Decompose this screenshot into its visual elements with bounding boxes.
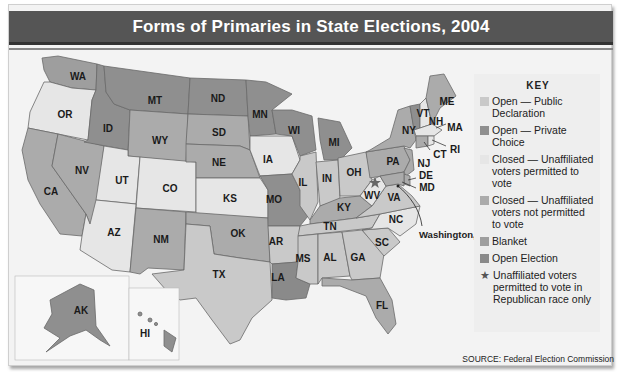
svg-text:NM: NM (153, 234, 169, 245)
legend-label: Closed — Unaffiliated voters not permitt… (492, 194, 596, 230)
svg-text:RI: RI (450, 144, 460, 155)
svg-text:TN: TN (323, 221, 336, 232)
svg-text:NJ: NJ (418, 158, 431, 169)
svg-text:MO: MO (266, 194, 282, 205)
svg-text:WA: WA (70, 71, 86, 82)
legend-label: Open — Public Declaration (492, 95, 596, 119)
svg-text:MT: MT (148, 95, 162, 106)
svg-text:ID: ID (103, 123, 113, 134)
legend-label: Blanket (492, 235, 527, 247)
source-note: SOURCE: Federal Election Commission (462, 354, 614, 364)
svg-text:AK: AK (74, 305, 89, 316)
svg-text:WY: WY (152, 135, 168, 146)
svg-text:WI: WI (288, 125, 300, 136)
svg-text:KS: KS (223, 193, 237, 204)
swatch-blanket (480, 237, 489, 246)
svg-text:AZ: AZ (107, 227, 120, 238)
state-ia (250, 136, 300, 176)
legend-item-open-public: Open — Public Declaration (480, 95, 596, 119)
svg-text:NV: NV (75, 165, 89, 176)
svg-text:IN: IN (322, 173, 332, 184)
star-icon: ★ (480, 269, 491, 281)
swatch-closed-not-permitted (480, 196, 489, 205)
svg-text:SC: SC (375, 237, 389, 248)
svg-text:AL: AL (323, 252, 336, 263)
svg-text:CO: CO (163, 183, 178, 194)
state-ct (416, 136, 428, 148)
svg-text:ND: ND (211, 93, 225, 104)
legend-label: Closed — Unaffiliated voters permitted t… (492, 153, 596, 189)
svg-text:NY: NY (402, 125, 416, 136)
svg-text:NC: NC (389, 214, 403, 225)
legend-item-open-election: Open Election (480, 252, 596, 264)
swatch-open-election (480, 254, 489, 263)
svg-text:AR: AR (269, 236, 284, 247)
legend-label: Open Election (492, 252, 558, 264)
svg-text:MS: MS (296, 253, 311, 264)
hi-island-3 (154, 322, 157, 325)
svg-text:FL: FL (376, 300, 388, 311)
svg-text:CT: CT (433, 149, 446, 160)
svg-text:OH: OH (347, 167, 362, 178)
swatch-open-private (480, 126, 489, 135)
svg-text:WV: WV (364, 190, 380, 201)
svg-text:VA: VA (387, 192, 400, 203)
legend-item-closed-not-permitted: Closed — Unaffiliated voters not permitt… (480, 194, 596, 230)
svg-text:MI: MI (328, 137, 339, 148)
svg-text:NH: NH (429, 116, 443, 127)
legend-item-star: ★ Unaffiliated voters permitted to vote … (480, 269, 596, 305)
svg-text:VT: VT (417, 108, 430, 119)
svg-text:CA: CA (44, 186, 58, 197)
legend-item-closed-permitted: Closed — Unaffiliated voters permitted t… (480, 153, 596, 189)
svg-text:PA: PA (386, 156, 399, 167)
legend-item-open-private: Open — Private Choice (480, 124, 596, 148)
legend-label: Unaffiliated voters permitted to vote in… (493, 269, 596, 305)
legend-heading: KEY (480, 80, 596, 91)
svg-text:LA: LA (271, 272, 284, 283)
svg-text:IL: IL (299, 177, 308, 188)
legend-item-blanket: Blanket (480, 235, 596, 247)
swatch-open-public (480, 97, 489, 106)
swatch-closed-permitted (480, 155, 489, 164)
svg-text:UT: UT (115, 175, 128, 186)
legend: KEY Open — Public Declaration Open — Pri… (474, 74, 600, 332)
hi-island-1 (138, 312, 142, 316)
svg-text:OR: OR (58, 109, 74, 120)
legend-label: Open — Private Choice (492, 124, 596, 148)
svg-text:NE: NE (212, 157, 226, 168)
svg-text:MD: MD (419, 182, 435, 193)
svg-text:MA: MA (447, 122, 463, 133)
svg-text:MN: MN (252, 109, 268, 120)
hi-island-2 (148, 318, 152, 322)
svg-text:KY: KY (337, 202, 351, 213)
svg-text:DE: DE (419, 170, 433, 181)
svg-text:HI: HI (140, 328, 150, 339)
dc-marker (397, 185, 400, 188)
svg-text:ME: ME (440, 96, 455, 107)
svg-text:OK: OK (231, 228, 247, 239)
svg-text:IA: IA (263, 154, 273, 165)
svg-text:SD: SD (212, 127, 226, 138)
state-ri (428, 136, 434, 146)
svg-text:GA: GA (351, 252, 366, 263)
svg-text:TX: TX (213, 269, 226, 280)
